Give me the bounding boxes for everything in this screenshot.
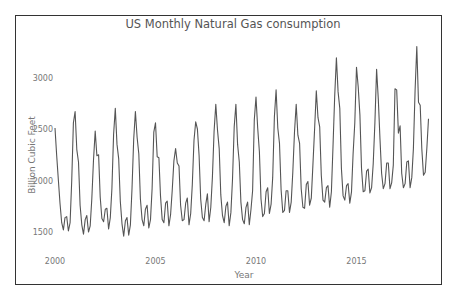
x-tick-label: 2005 [145, 257, 165, 266]
y-tick-label: 1500 [33, 228, 53, 237]
data-line [55, 47, 429, 237]
x-tick-label: 2000 [45, 257, 65, 266]
x-axis-ticks: 2000200520102015 [45, 257, 367, 266]
x-tick-label: 2015 [346, 257, 366, 266]
chart: US Monthly Natural Gas consumption 15002… [0, 0, 457, 303]
y-axis-label: Billion Cubic Feet [27, 116, 37, 194]
x-axis-label: Year [233, 270, 253, 280]
y-tick-label: 3000 [33, 74, 53, 83]
chart-title: US Monthly Natural Gas consumption [125, 17, 340, 31]
x-tick-label: 2010 [246, 257, 266, 266]
